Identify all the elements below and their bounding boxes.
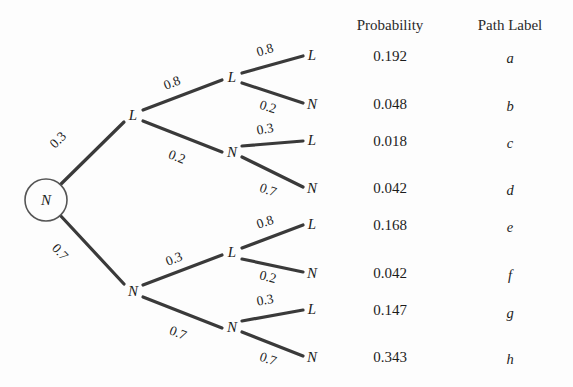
branch-L1-to-L [143,80,222,110]
column-header-probability: Probability [357,18,424,33]
node-level2-LN: N [227,145,237,160]
probability-value-b: 0.048 [373,97,407,112]
leaf-node-a: L [308,48,316,63]
node-level1-N: N [128,284,138,299]
leaf-node-d: N [307,181,317,196]
path-label-h: h [506,352,513,367]
probability-value-g: 0.147 [373,303,407,318]
path-label-a: a [506,51,513,66]
branch-N1-to-N [143,297,222,328]
leaf-node-c: L [308,133,316,148]
branch-root-to-N1 [59,214,124,284]
branch-L1N-to-leaf-c [242,141,303,146]
node-level1-L: L [129,108,137,123]
path-label-b: b [506,99,513,114]
probability-value-d: 0.042 [373,181,407,196]
path-label-c: c [507,136,513,151]
leaf-node-b: N [307,97,317,112]
branch-N1L-to-leaf-e [242,225,303,248]
leaf-node-e: L [308,217,316,232]
probability-value-f: 0.042 [373,266,407,281]
node-level2-LL: L [228,70,236,85]
root-node-label: N [41,193,51,208]
tree-branches [0,0,573,387]
leaf-node-g: L [308,302,316,317]
path-label-e: e [507,220,513,235]
path-label-g: g [506,306,513,321]
branch-L1-to-N [143,121,222,152]
branch-N1N-to-leaf-g [242,310,303,321]
probability-value-c: 0.018 [373,134,407,149]
leaf-node-h: N [307,350,317,365]
probability-tree-figure: N L N L N L N L N L N L N L N 0.3 0.7 0.… [0,0,573,387]
edge-label-N1L-to-leaf-f: 0.2 [258,268,278,285]
column-header-path-label: Path Label [478,18,543,33]
path-label-f: f [508,268,512,283]
edge-label-L1N-to-leaf-c: 0.3 [256,121,275,137]
branch-root-to-L1 [59,122,124,186]
probability-value-h: 0.343 [373,350,407,365]
node-level2-NN: N [227,320,237,335]
leaf-node-f: N [307,266,317,281]
probability-value-e: 0.168 [373,218,407,233]
node-level2-NL: L [228,245,236,260]
path-label-d: d [506,183,513,198]
branch-L1L-to-leaf-a [242,56,303,73]
edge-label-N1N-to-leaf-g: 0.3 [256,292,275,308]
probability-value-a: 0.192 [373,49,407,64]
